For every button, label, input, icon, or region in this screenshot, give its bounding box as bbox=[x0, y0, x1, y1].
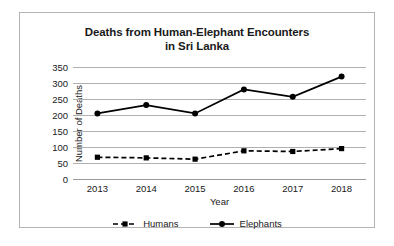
data-point-square bbox=[290, 149, 295, 154]
legend-dashed-square-icon bbox=[112, 219, 138, 229]
x-tick-label: 2013 bbox=[87, 183, 108, 194]
x-axis-title: Year bbox=[73, 196, 366, 207]
gridline-0 bbox=[73, 179, 366, 180]
y-tick-label: 0 bbox=[63, 174, 68, 185]
y-tick-label: 350 bbox=[52, 62, 68, 73]
data-point-circle bbox=[339, 74, 345, 80]
series-humans bbox=[95, 146, 344, 162]
y-tick-label: 100 bbox=[52, 142, 68, 153]
x-tick-label: 2017 bbox=[282, 183, 303, 194]
chart-title-line-1: Deaths from Human-Elephant Encounters bbox=[20, 25, 374, 39]
data-point-square bbox=[144, 155, 149, 160]
y-tick-label: 50 bbox=[57, 158, 68, 169]
x-tick-label: 2018 bbox=[331, 183, 352, 194]
data-point-square bbox=[339, 146, 344, 151]
legend-item-humans[interactable]: Humans bbox=[112, 218, 178, 229]
legend-label: Elephants bbox=[240, 218, 282, 229]
chart-title-line-2: in Sri Lanka bbox=[20, 39, 374, 53]
data-point-circle bbox=[192, 110, 198, 116]
series-line bbox=[97, 149, 341, 160]
data-point-circle bbox=[94, 110, 100, 116]
plot-area: 050100150200250300350 201320142015201620… bbox=[73, 67, 366, 179]
data-point-square bbox=[241, 148, 246, 153]
data-point-square bbox=[192, 157, 197, 162]
legend-solid-circle-icon bbox=[209, 219, 235, 229]
legend-item-elephants[interactable]: Elephants bbox=[209, 218, 282, 229]
x-tick-label: 2014 bbox=[136, 183, 157, 194]
x-tick-label: 2015 bbox=[185, 183, 206, 194]
chart-frame: Deaths from Human-Elephant Encounters in… bbox=[19, 12, 375, 228]
data-point-circle bbox=[241, 86, 247, 92]
chart-title: Deaths from Human-Elephant Encounters in… bbox=[20, 25, 374, 53]
y-tick-label: 150 bbox=[52, 126, 68, 137]
y-tick-label: 300 bbox=[52, 78, 68, 89]
data-point-square bbox=[95, 155, 100, 160]
y-tick-label: 250 bbox=[52, 94, 68, 105]
data-point-circle bbox=[290, 94, 296, 100]
series-line bbox=[97, 77, 341, 114]
data-point-circle bbox=[143, 102, 149, 108]
y-tick-label: 200 bbox=[52, 110, 68, 121]
legend-label: Humans bbox=[143, 218, 178, 229]
x-tick-label: 2016 bbox=[233, 183, 254, 194]
chart-legend: HumansElephants bbox=[20, 218, 374, 229]
series-elephants bbox=[94, 74, 344, 117]
series-plot bbox=[73, 67, 366, 179]
x-axis-title-label: Year bbox=[210, 196, 229, 207]
